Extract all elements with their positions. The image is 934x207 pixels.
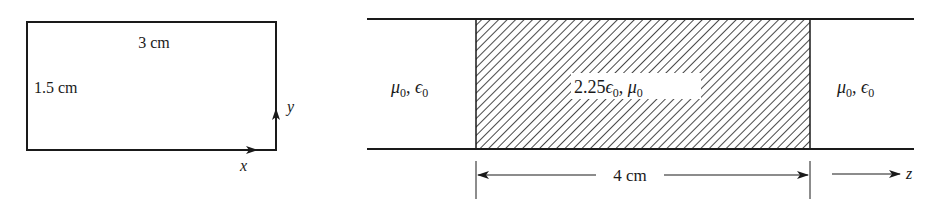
waveguide-diagram: μ0, ϵ0 2.25ϵ0, μ0 μ0, ϵ0 4 cm z — [367, 19, 914, 199]
cross-section-diagram: 3 cm 1.5 cm x y — [27, 22, 295, 174]
length-dimension: 4 cm — [476, 161, 810, 199]
length-label: 4 cm — [613, 166, 647, 185]
z-axis-label: z — [905, 165, 913, 182]
height-label: 1.5 cm — [34, 79, 78, 96]
left-region-label: μ0, ϵ0 — [390, 77, 428, 100]
y-axis-label: y — [285, 98, 295, 116]
x-axis-label: x — [239, 157, 247, 174]
center-region-label: 2.25ϵ0, μ0 — [574, 77, 643, 100]
width-label: 3 cm — [138, 34, 170, 51]
diagram-canvas: 3 cm 1.5 cm x y μ0, ϵ0 2.25ϵ0, μ0 μ0, ϵ0 — [0, 0, 934, 207]
right-region-label: μ0, ϵ0 — [836, 77, 874, 100]
